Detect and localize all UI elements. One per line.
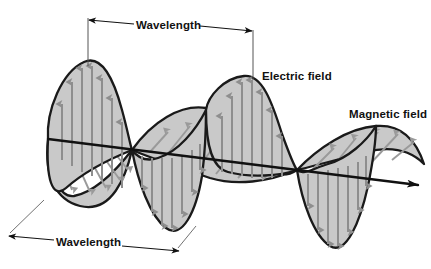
wavelength-bottom-label: Wavelength: [56, 236, 121, 248]
magnetic-field-label: Magnetic field: [349, 108, 427, 120]
wavelength-top-label: Wavelength: [136, 19, 201, 31]
em-wave-svg: Wavelength Wavelength Electric field Mag…: [0, 0, 431, 269]
em-wave-figure: Wavelength Wavelength Electric field Mag…: [0, 0, 431, 269]
electric-field-label: Electric field: [262, 70, 332, 82]
